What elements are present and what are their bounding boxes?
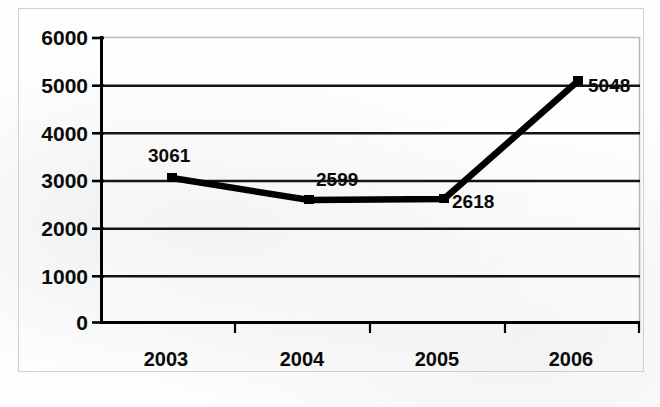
data-label-2003: 3061 [148,146,190,165]
data-point-2004 [304,195,314,204]
line-chart [0,0,660,407]
data-label-2004: 2599 [316,170,358,189]
x-tick-label-2004: 2004 [257,349,347,369]
y-tick-label-5000: 5000 [18,75,88,96]
data-point-2005 [439,194,449,203]
y-tick-label-4000: 4000 [18,123,88,144]
data-label-2006: 5048 [588,76,630,95]
x-tick-label-2003: 2003 [121,349,211,369]
y-tick-label-2000: 2000 [18,218,88,239]
y-tick-label-3000: 3000 [18,170,88,191]
data-point-2003 [167,173,177,182]
data-label-2005: 2618 [452,192,494,211]
y-tick-label-1000: 1000 [18,266,88,287]
data-point-2006 [573,76,583,85]
x-tick-label-2006: 2006 [526,349,616,369]
y-tick-label-6000: 6000 [18,27,88,48]
x-tick-label-2005: 2005 [392,349,482,369]
y-tick-label-0: 0 [18,312,88,333]
